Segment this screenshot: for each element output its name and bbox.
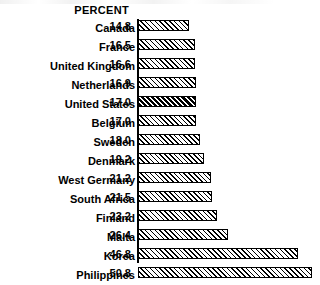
value-label: 16.5 <box>104 38 131 53</box>
value-label: 16.9 <box>104 76 131 91</box>
chart-header: PERCENT <box>0 3 137 17</box>
bar <box>138 191 212 202</box>
bar-row: Netherlands16.9 <box>0 76 320 95</box>
bar-row: Finland23.2 <box>0 209 320 228</box>
bar <box>138 134 200 145</box>
value-label: 46.8 <box>104 247 131 262</box>
value-label: 21.2 <box>104 171 131 186</box>
bar <box>138 77 196 88</box>
bar-row: Belgium17.0 <box>0 114 320 133</box>
bar-row: United Kingdom16.6 <box>0 57 320 76</box>
bar <box>138 210 217 221</box>
percent-column-header: PERCENT <box>74 3 129 17</box>
value-label: 19.2 <box>104 152 131 167</box>
value-label: 23.2 <box>104 209 131 224</box>
bar-rows: Canada14.8France16.5United Kingdom16.6Ne… <box>0 19 320 285</box>
bar-row: Canada14.8 <box>0 19 320 38</box>
bar <box>138 58 195 69</box>
bar-highlighted <box>138 96 196 107</box>
value-label: 17.0 <box>104 114 131 129</box>
bar-row: Korea46.8 <box>0 247 320 266</box>
bar <box>138 267 312 278</box>
bar-row: Sweden18.0 <box>0 133 320 152</box>
bar-row: France16.5 <box>0 38 320 57</box>
bar-row: Philippines50.8 <box>0 266 320 285</box>
bar <box>138 229 228 240</box>
bar-row: West Germany21.2 <box>0 171 320 190</box>
bar-row: United States17.0 <box>0 95 320 114</box>
value-label: 17.0 <box>104 95 131 110</box>
value-label: 26.4 <box>104 228 131 243</box>
value-label: 50.8 <box>104 266 131 281</box>
bar <box>138 115 196 126</box>
value-label: 14.8 <box>104 19 131 34</box>
bar <box>138 248 298 259</box>
bar-row: South Africa21.5 <box>0 190 320 209</box>
bar <box>138 39 195 50</box>
bar-row: Denmark19.2 <box>0 152 320 171</box>
value-label: 18.0 <box>104 133 131 148</box>
bar <box>138 172 211 183</box>
value-label: 16.6 <box>104 57 131 72</box>
bar <box>138 153 204 164</box>
value-label: 21.5 <box>104 190 131 205</box>
bar-row: Malta26.4 <box>0 228 320 247</box>
bar <box>138 20 189 31</box>
